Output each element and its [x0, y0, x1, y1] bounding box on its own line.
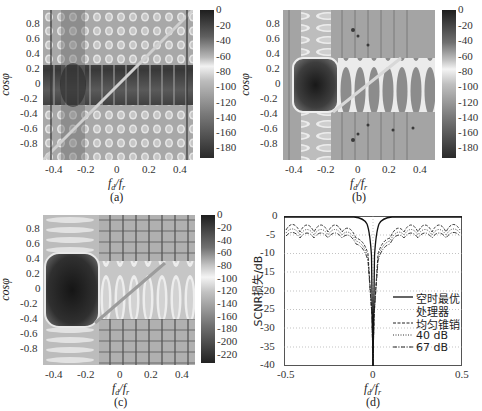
- ytick: -0.2: [20, 92, 37, 104]
- colorbar-tick: -100: [458, 80, 478, 92]
- caption: (a): [110, 190, 123, 205]
- colorbar-tick: -180: [216, 141, 236, 153]
- ytick: 0.8: [26, 222, 40, 234]
- ytick: -0.2: [20, 297, 37, 309]
- y-axis-label: cosφ: [0, 73, 13, 96]
- colorbar-tick: -60: [217, 246, 232, 258]
- xtick: -0.5: [277, 368, 294, 380]
- colorbar-tick: -80: [216, 65, 231, 77]
- heatmap-c: [43, 215, 195, 365]
- ytick: -0.8: [20, 137, 37, 149]
- ytick: -0.4: [260, 107, 277, 119]
- colorbar-tick: 0: [216, 3, 222, 15]
- colorbar-tick: -160: [216, 126, 236, 138]
- y-axis-label: cosφ: [238, 73, 253, 96]
- xtick: 0: [117, 368, 123, 380]
- colorbar-tick: -60: [216, 50, 231, 62]
- ytick: 0.2: [266, 62, 280, 74]
- xtick: 0.4: [173, 163, 187, 175]
- colorbar-tick: -160: [217, 310, 237, 322]
- colorbar-b: [442, 10, 456, 158]
- colorbar-tick: -120: [217, 284, 237, 296]
- colorbar-tick: -220: [217, 348, 237, 360]
- caption: (b): [352, 190, 366, 205]
- ytick: 0: [35, 77, 41, 89]
- xtick: -0.4: [45, 163, 62, 175]
- colorbar-tick: -160: [458, 126, 478, 138]
- xtick: 0: [370, 368, 376, 380]
- xtick: 0: [114, 163, 120, 175]
- ytick: -0.4: [20, 107, 37, 119]
- colorbar-c: [201, 215, 215, 363]
- colorbar-tick: -40: [216, 34, 231, 46]
- xtick: -0.2: [317, 163, 334, 175]
- y-axis-label: SCNR损失/dB: [249, 256, 265, 327]
- xtick: 0.4: [175, 368, 189, 380]
- xtick: -0.4: [285, 163, 302, 175]
- ytick: 0.6: [266, 32, 280, 44]
- ytick: 0.6: [26, 237, 40, 249]
- ytick: 0.2: [26, 267, 40, 279]
- colorbar-tick: -140: [217, 297, 237, 309]
- ytick: -0.8: [20, 342, 37, 354]
- colorbar-tick: -180: [458, 141, 478, 153]
- ytick: -35: [260, 340, 275, 352]
- legend-item-67db: 67 dB: [416, 341, 448, 354]
- xtick: -0.2: [77, 163, 94, 175]
- xtick: 0: [355, 163, 361, 175]
- ytick: -40: [260, 358, 275, 370]
- ytick: 0.8: [26, 17, 40, 29]
- y-axis-label: cosφ: [0, 278, 13, 301]
- colorbar-tick: -100: [217, 272, 237, 284]
- xtick: -0.2: [77, 368, 94, 380]
- colorbar-tick: -60: [458, 50, 473, 62]
- colorbar-tick: -20: [458, 19, 473, 31]
- ytick: 0: [275, 77, 281, 89]
- ytick: -0.6: [20, 122, 37, 134]
- ytick: 0.4: [26, 252, 40, 264]
- colorbar-tick: -80: [217, 259, 232, 271]
- colorbar-tick: -140: [458, 111, 478, 123]
- ytick: -0.6: [260, 122, 277, 134]
- ytick: 0.4: [26, 47, 40, 59]
- heatmap-b: [283, 10, 435, 160]
- ytick: 0: [272, 209, 278, 221]
- colorbar-tick: -40: [217, 234, 232, 246]
- heatmap-a: [43, 10, 193, 160]
- colorbar-tick: 0: [217, 208, 223, 220]
- ytick: 0: [35, 282, 41, 294]
- legend-swatches: [393, 292, 415, 352]
- ytick: 0.2: [26, 62, 40, 74]
- colorbar-tick: -100: [216, 80, 236, 92]
- ytick: -0.6: [20, 327, 37, 339]
- colorbar-tick: -180: [217, 322, 237, 334]
- xtick: 0.2: [144, 368, 158, 380]
- ytick: 0.4: [266, 47, 280, 59]
- ytick: -5: [266, 228, 275, 240]
- colorbar-tick: -200: [217, 335, 237, 347]
- colorbar-tick: 0: [458, 3, 464, 15]
- ytick: -0.4: [20, 312, 37, 324]
- xtick: 0.2: [382, 163, 396, 175]
- colorbar-tick: -20: [216, 19, 231, 31]
- colorbar-tick: -80: [458, 65, 473, 77]
- xtick: 0.5: [455, 368, 469, 380]
- caption: (c): [114, 395, 127, 410]
- colorbar-tick: -20: [217, 221, 232, 233]
- ytick: -0.8: [260, 137, 277, 149]
- colorbar-a: [200, 10, 214, 158]
- colorbar-tick: -120: [216, 96, 236, 108]
- ytick: -0.2: [260, 92, 277, 104]
- colorbar-tick: -140: [216, 111, 236, 123]
- ytick: 0.6: [26, 32, 40, 44]
- colorbar-tick: -120: [458, 96, 478, 108]
- xtick: -0.4: [45, 368, 62, 380]
- xtick: 0.2: [142, 163, 156, 175]
- colorbar-tick: -40: [458, 34, 473, 46]
- ytick: 0.8: [266, 17, 280, 29]
- caption: (d): [366, 395, 380, 410]
- xtick: 0.4: [413, 163, 427, 175]
